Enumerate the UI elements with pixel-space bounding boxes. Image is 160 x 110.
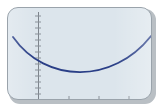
screenshot-root bbox=[0, 0, 160, 110]
x-axis-ticks bbox=[69, 96, 129, 100]
graph-viewer-panel[interactable] bbox=[7, 7, 152, 100]
graph-plot-area[interactable] bbox=[8, 8, 152, 100]
curve-parabola[interactable] bbox=[13, 36, 151, 72]
